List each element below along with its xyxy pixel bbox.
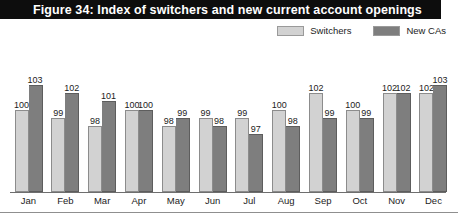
bar-group: 10099 bbox=[345, 44, 374, 192]
legend-swatch-new-cas bbox=[373, 26, 400, 36]
month-label-jul: Jul bbox=[235, 195, 264, 206]
month-label-aug: Aug bbox=[272, 195, 301, 206]
bar-value-label: 100 bbox=[14, 100, 29, 110]
bar-value-label: 103 bbox=[432, 75, 447, 85]
bar-value-label: 98 bbox=[288, 116, 298, 126]
bar-switchers: 102 bbox=[419, 93, 433, 192]
month-label-may: May bbox=[161, 195, 190, 206]
bar-value-label: 101 bbox=[101, 91, 116, 101]
bar-value-label: 98 bbox=[214, 116, 224, 126]
bar-value-label: 97 bbox=[251, 124, 261, 134]
bar-value-label: 99 bbox=[53, 108, 63, 118]
month-label-jan: Jan bbox=[14, 195, 43, 206]
bar-group: 9998 bbox=[198, 44, 227, 192]
bar-value-label: 99 bbox=[201, 108, 211, 118]
bar-new-cas: 101 bbox=[102, 101, 116, 192]
month-label-jun: Jun bbox=[198, 195, 227, 206]
bar-switchers: 100 bbox=[346, 110, 360, 193]
bar-new-cas: 103 bbox=[29, 85, 43, 192]
bar-value-label: 99 bbox=[361, 108, 371, 118]
bar-new-cas: 103 bbox=[433, 85, 447, 192]
page-title: Figure 34: Index of switchers and new cu… bbox=[33, 3, 422, 17]
bar-value-label: 100 bbox=[345, 100, 360, 110]
bar-new-cas: 98 bbox=[213, 126, 227, 192]
bar-group: 99102 bbox=[51, 44, 80, 192]
bar-new-cas: 102 bbox=[397, 93, 411, 192]
bar-switchers: 98 bbox=[162, 126, 176, 192]
banner-edge bbox=[441, 0, 458, 19]
bar-switchers: 102 bbox=[383, 93, 397, 192]
legend-item-new-cas: New CAs bbox=[373, 25, 446, 36]
footer-rule bbox=[0, 212, 458, 213]
bar-value-label: 102 bbox=[308, 83, 323, 93]
bar-new-cas: 102 bbox=[65, 93, 79, 192]
figure-title-banner: Figure 34: Index of switchers and new cu… bbox=[0, 0, 441, 19]
month-label-apr: Apr bbox=[124, 195, 153, 206]
bar-group: 102103 bbox=[419, 44, 448, 192]
bar-new-cas: 100 bbox=[139, 110, 153, 193]
bar-switchers: 100 bbox=[272, 110, 286, 193]
bar-new-cas: 97 bbox=[249, 134, 263, 192]
bar-group: 98101 bbox=[88, 44, 117, 192]
bar-switchers: 99 bbox=[199, 118, 213, 192]
month-label-sep: Sep bbox=[309, 195, 338, 206]
bar-switchers: 99 bbox=[51, 118, 65, 192]
legend-swatch-switchers bbox=[277, 26, 304, 36]
bar-value-label: 102 bbox=[396, 83, 411, 93]
bar-switchers: 100 bbox=[125, 110, 139, 193]
chart-legend: Switchers New CAs bbox=[277, 25, 446, 36]
month-label-nov: Nov bbox=[382, 195, 411, 206]
chart-plot-area: 1001039910298101100100989999989997100981… bbox=[0, 44, 458, 194]
bar-switchers: 102 bbox=[309, 93, 323, 192]
bar-new-cas: 99 bbox=[176, 118, 190, 192]
bar-switchers: 98 bbox=[88, 126, 102, 192]
month-label-feb: Feb bbox=[51, 195, 80, 206]
bar-value-label: 98 bbox=[164, 116, 174, 126]
bar-value-label: 99 bbox=[177, 108, 187, 118]
month-label-dec: Dec bbox=[419, 195, 448, 206]
bar-group: 100103 bbox=[14, 44, 43, 192]
bar-group: 9899 bbox=[161, 44, 190, 192]
legend-item-switchers: Switchers bbox=[277, 25, 351, 36]
bar-value-label: 102 bbox=[64, 83, 79, 93]
bar-group: 10098 bbox=[272, 44, 301, 192]
bar-groups: 1001039910298101100100989999989997100981… bbox=[14, 44, 448, 192]
legend-label-new-cas: New CAs bbox=[406, 25, 446, 36]
bar-value-label: 100 bbox=[272, 100, 287, 110]
bar-switchers: 99 bbox=[235, 118, 249, 192]
legend-label-switchers: Switchers bbox=[310, 25, 351, 36]
bar-new-cas: 99 bbox=[360, 118, 374, 192]
bar-group: 102102 bbox=[382, 44, 411, 192]
bar-value-label: 100 bbox=[138, 100, 153, 110]
bar-group: 10299 bbox=[309, 44, 338, 192]
bar-switchers: 100 bbox=[15, 110, 29, 193]
bar-group: 100100 bbox=[124, 44, 153, 192]
x-axis-line bbox=[10, 192, 446, 193]
bar-group: 9997 bbox=[235, 44, 264, 192]
bar-value-label: 98 bbox=[90, 116, 100, 126]
bar-value-label: 99 bbox=[237, 108, 247, 118]
bar-value-label: 99 bbox=[324, 108, 334, 118]
x-axis-tick-labels: JanFebMarAprMayJunJulAugSepOctNovDec bbox=[14, 195, 448, 206]
bar-new-cas: 98 bbox=[286, 126, 300, 192]
month-label-mar: Mar bbox=[88, 195, 117, 206]
month-label-oct: Oct bbox=[345, 195, 374, 206]
bar-new-cas: 99 bbox=[323, 118, 337, 192]
bar-value-label: 103 bbox=[27, 75, 42, 85]
